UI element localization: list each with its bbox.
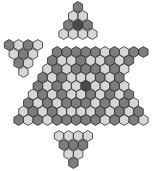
hex-cell <box>14 40 23 51</box>
hex-cell <box>64 149 73 160</box>
hex-cell <box>88 29 97 40</box>
hex-cell <box>24 40 33 51</box>
hex-cell <box>78 140 87 151</box>
hex-cell <box>19 49 28 60</box>
hex-cell <box>64 131 73 142</box>
hex-cell <box>69 11 78 22</box>
hex-cell <box>120 115 129 126</box>
hex-cell <box>78 29 87 40</box>
hex-cell <box>33 115 42 126</box>
hex-cell <box>73 20 82 31</box>
hex-cell <box>9 49 18 60</box>
hex-cell <box>24 115 33 126</box>
hex-cell <box>72 115 81 126</box>
hex-cell <box>69 158 78 169</box>
hex-cell <box>83 131 92 142</box>
left-triangle-piece[interactable] <box>4 40 42 78</box>
hex-cell <box>139 115 148 126</box>
hex-cell <box>110 115 119 126</box>
hex-cell <box>74 131 83 142</box>
hex-cell <box>81 115 90 126</box>
hex-cell <box>4 40 13 51</box>
hex-cell <box>33 40 42 51</box>
hex-cell <box>64 20 73 31</box>
hex-cell <box>19 67 28 78</box>
hex-star-board <box>0 0 155 171</box>
hex-cell <box>59 140 68 151</box>
hex-cell <box>24 58 33 69</box>
hex-cell <box>129 115 138 126</box>
hex-cell <box>100 115 109 126</box>
hex-cell <box>83 20 92 31</box>
hex-cell <box>54 131 63 142</box>
hex-cell <box>14 115 23 126</box>
hex-cell <box>62 115 71 126</box>
hex-cell <box>74 149 83 160</box>
hex-cell <box>52 115 61 126</box>
hex-cell <box>28 49 37 60</box>
hex-cell <box>139 47 148 58</box>
main-board-piece[interactable] <box>14 47 148 169</box>
top-triangle-piece[interactable] <box>59 2 97 40</box>
hex-cell <box>59 29 68 40</box>
hex-cell <box>43 115 52 126</box>
hex-cell <box>73 2 82 13</box>
hex-cell <box>14 58 23 69</box>
hex-cell <box>69 140 78 151</box>
hex-cell <box>69 29 78 40</box>
hex-cell <box>78 11 87 22</box>
hex-cell <box>91 115 100 126</box>
